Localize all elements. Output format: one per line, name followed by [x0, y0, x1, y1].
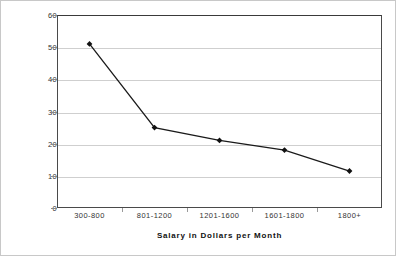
- x-tick-label: 300-800: [74, 211, 105, 220]
- y-tick-mark: [51, 208, 57, 209]
- x-tick-mark: [252, 208, 253, 212]
- x-tick-label: 1201-1600: [200, 211, 240, 220]
- x-axis-title: Salary in Dollars per Month: [57, 231, 382, 240]
- x-tick-label: 801-1200: [137, 211, 172, 220]
- x-tick-mark: [122, 208, 123, 212]
- series-polyline: [90, 44, 350, 171]
- line-series: [57, 15, 382, 208]
- data-point-marker: [282, 147, 288, 153]
- data-point-marker: [347, 168, 353, 174]
- x-tick-label: 1800+: [338, 211, 361, 220]
- y-axis-tick-labels: 0102030405060: [1, 1, 57, 256]
- x-tick-label: 1601-1800: [265, 211, 305, 220]
- data-point-marker: [217, 138, 223, 144]
- series-markers: [87, 41, 353, 174]
- x-tick-mark: [187, 208, 188, 212]
- x-tick-mark: [317, 208, 318, 212]
- chart-figure: Remittance as a Percent of Salary 010203…: [0, 0, 396, 256]
